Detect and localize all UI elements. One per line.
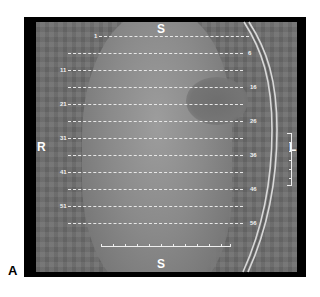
slice-label-16: 16	[250, 84, 257, 90]
slice-label-41: 41	[60, 169, 67, 175]
slice-line-21	[68, 104, 243, 105]
slice-line-26	[68, 121, 243, 122]
orientation-top: S	[157, 23, 165, 35]
catheter-curve-icon	[0, 0, 320, 297]
slice-label-56: 56	[250, 220, 257, 226]
vertical-scale-bar	[287, 133, 292, 186]
orientation-bottom: S	[157, 258, 165, 270]
slice-line-46	[68, 189, 243, 190]
horizontal-scale-bar	[101, 246, 231, 251]
slice-label-31: 31	[60, 135, 67, 141]
slice-label-51: 51	[60, 203, 67, 209]
slice-label-26: 26	[250, 118, 257, 124]
slice-line-36	[68, 155, 243, 156]
slice-line-51	[68, 206, 243, 207]
slice-label-6: 6	[248, 50, 251, 56]
panel-label: A	[8, 263, 17, 278]
slice-line-31	[68, 138, 243, 139]
slice-label-11: 11	[60, 67, 66, 73]
slice-line-1	[99, 36, 249, 37]
slice-line-41	[68, 172, 243, 173]
orientation-left: R	[37, 141, 46, 153]
slice-line-16	[68, 87, 243, 88]
slice-label-46: 46	[250, 186, 257, 192]
slice-line-11	[68, 70, 243, 71]
slice-label-36: 36	[250, 152, 257, 158]
slice-line-56	[68, 223, 243, 224]
slice-label-21: 21	[60, 101, 67, 107]
slice-label-1: 1	[94, 33, 97, 39]
slice-line-6	[68, 53, 243, 54]
